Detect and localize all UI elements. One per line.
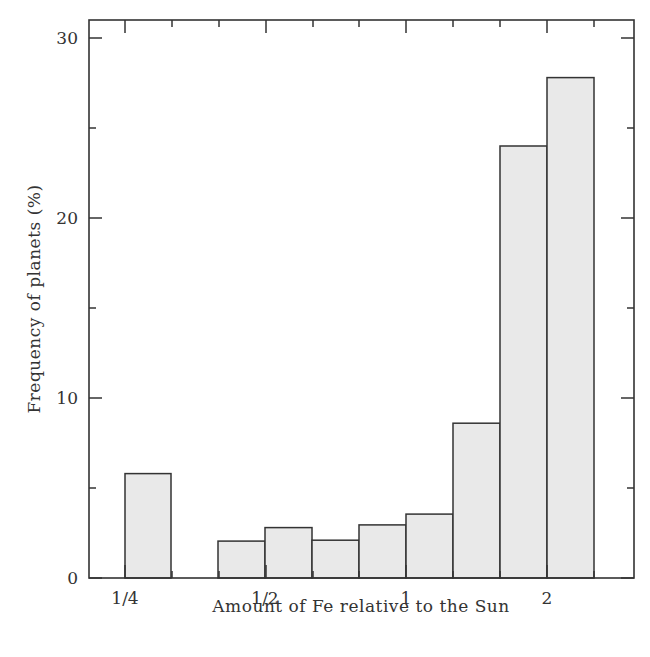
x-tick-label: 2 [542, 588, 553, 608]
histogram-bar [500, 146, 547, 578]
histogram-bars [125, 78, 594, 578]
histogram-bar [453, 423, 500, 578]
y-axis-title: Frequency of planets (%) [24, 184, 44, 413]
y-tick-label: 20 [56, 208, 78, 228]
y-tick-label: 30 [56, 28, 78, 48]
histogram-bar [359, 525, 406, 578]
histogram-bar [312, 540, 359, 578]
histogram-bar [547, 78, 594, 578]
y-tick-label: 10 [56, 388, 78, 408]
histogram-bar [406, 514, 453, 578]
y-tick-labels: 0102030 [56, 28, 78, 588]
histogram-chart: 1/41/212 0102030 Amount of Fe relative t… [0, 0, 650, 657]
x-axis-title: Amount of Fe relative to the Sun [211, 596, 509, 616]
histogram-bar [218, 541, 265, 578]
x-tick-label: 1/4 [111, 588, 138, 608]
histogram-bar [265, 528, 312, 578]
y-tick-label: 0 [67, 568, 78, 588]
histogram-bar [125, 474, 171, 578]
